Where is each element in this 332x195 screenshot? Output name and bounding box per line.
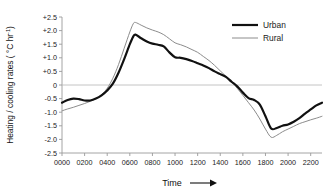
- y-tick-label: +1.0: [43, 53, 57, 62]
- x-tick-label: 1000: [167, 158, 183, 167]
- y-tick-label: 0: [53, 81, 57, 90]
- chart-figure: +2.5+2.0+1.5+1.0+0.50-0.5-1.0-1.5-2.0-2.…: [0, 0, 332, 195]
- y-tick-label: -1.0: [45, 108, 57, 117]
- x-tick-label: 2000: [280, 158, 296, 167]
- y-tick-label: -1.5: [45, 121, 57, 130]
- x-tick-label: 0000: [54, 158, 70, 167]
- y-tick-label: -0.5: [45, 94, 57, 103]
- x-tick-label: 1600: [235, 158, 251, 167]
- legend-label-urban: Urban: [263, 20, 286, 30]
- x-tick-label: 2200: [303, 158, 319, 167]
- x-tick-label: 1800: [257, 158, 273, 167]
- y-tick-label: +0.5: [43, 67, 57, 76]
- y-tick-label: -2.0: [45, 135, 57, 144]
- x-tick-label: 1400: [212, 158, 228, 167]
- y-tick-label: +1.5: [43, 40, 57, 49]
- x-tick-label: 0800: [144, 158, 160, 167]
- x-tick-label: 0600: [122, 158, 138, 167]
- heating-cooling-rates-line-chart: +2.5+2.0+1.5+1.0+0.50-0.5-1.0-1.5-2.0-2.…: [0, 0, 332, 195]
- x-axis-title: Time: [162, 178, 182, 188]
- x-tick-label: 1200: [190, 158, 206, 167]
- y-axis-title-text: Heating / cooling rates ( °C hr-1): [5, 26, 15, 144]
- y-tick-label: +2.5: [43, 13, 57, 22]
- x-tick-label: 0200: [77, 158, 93, 167]
- y-tick-label: +2.0: [43, 26, 57, 35]
- y-tick-label: -2.5: [45, 149, 57, 158]
- legend-label-rural: Rural: [263, 33, 283, 43]
- y-axis-title: Heating / cooling rates ( °C hr-1): [5, 26, 15, 144]
- x-tick-label: 0400: [99, 158, 115, 167]
